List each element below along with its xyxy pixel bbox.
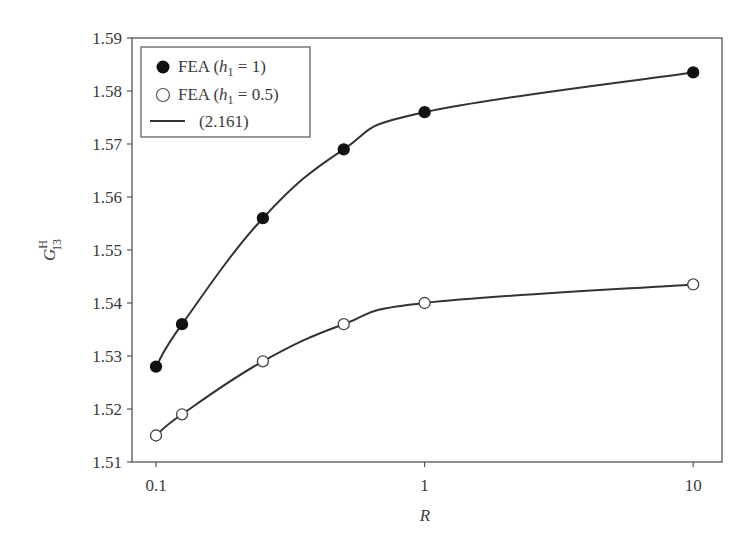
y-axis-label: GH13 — [36, 239, 64, 261]
filled-circle-icon — [157, 61, 170, 74]
filled-circle-marker — [338, 144, 349, 155]
filled-circle-marker — [688, 67, 699, 78]
y-tick-label: 1.58 — [92, 82, 122, 101]
x-tick-label: 10 — [685, 476, 702, 495]
y-tick-label: 1.54 — [92, 294, 122, 313]
x-axis: 0.1110 — [145, 462, 701, 495]
open-circle-marker — [688, 279, 699, 290]
svg-text:GH13: GH13 — [36, 239, 64, 261]
legend: FEA (h1 = 1)FEA (h1 = 0.5)(2.161) — [141, 47, 310, 137]
open-circle-marker — [177, 409, 188, 420]
filled-circle-marker — [151, 361, 162, 372]
open-circle-marker — [338, 319, 349, 330]
y-axis: 1.511.521.531.541.551.561.571.581.59 — [92, 29, 132, 472]
y-tick-label: 1.56 — [92, 188, 122, 207]
y-tick-label: 1.55 — [92, 241, 122, 260]
y-tick-label: 1.52 — [92, 400, 122, 419]
x-tick-label: 1 — [420, 476, 429, 495]
open-circle-icon — [157, 89, 170, 102]
series-fea-h1-0-5 — [151, 279, 699, 441]
y-tick-label: 1.51 — [92, 453, 122, 472]
chart: 1.511.521.531.541.551.561.571.581.59 0.1… — [0, 0, 755, 555]
x-axis-label: R — [419, 506, 431, 525]
filled-circle-marker — [177, 319, 188, 330]
open-circle-marker — [151, 430, 162, 441]
filled-circle-marker — [419, 107, 430, 118]
legend-label: (2.161) — [199, 112, 249, 131]
open-circle-marker — [257, 356, 268, 367]
y-tick-label: 1.57 — [92, 135, 122, 154]
filled-circle-marker — [257, 213, 268, 224]
x-tick-label: 0.1 — [145, 476, 166, 495]
y-axis-label-sub: 13 — [50, 239, 64, 251]
open-circle-marker — [419, 298, 430, 309]
y-tick-label: 1.53 — [92, 347, 122, 366]
legend-label: FEA (h1 = 1) — [178, 57, 266, 79]
y-axis-label-sup: H — [36, 240, 50, 249]
y-tick-label: 1.59 — [92, 29, 122, 48]
